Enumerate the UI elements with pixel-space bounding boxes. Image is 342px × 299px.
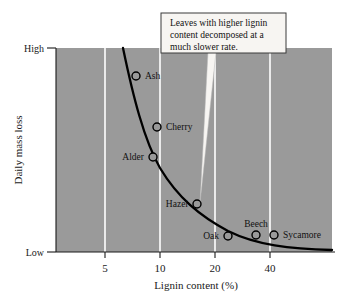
- data-label-cherry: Cherry: [166, 122, 193, 132]
- y-axis-high-label: High: [24, 43, 44, 54]
- x-tick-label-20: 20: [210, 262, 222, 274]
- chart-canvas: High Low Daily mass loss 5 10 20 40 Lign…: [0, 0, 342, 299]
- data-label-oak: Oak: [203, 231, 219, 241]
- y-axis-low-label: Low: [26, 247, 45, 258]
- x-axis-title: Lignin content (%): [154, 279, 238, 292]
- lignin-decomposition-figure: High Low Daily mass loss 5 10 20 40 Lign…: [0, 0, 342, 299]
- data-point-beech[interactable]: [252, 231, 260, 239]
- data-label-alder: Alder: [122, 152, 144, 162]
- data-point-sycamore[interactable]: [270, 231, 278, 239]
- x-tick-label-5: 5: [102, 262, 108, 274]
- data-label-ash: Ash: [145, 71, 161, 81]
- data-point-ash[interactable]: [132, 72, 140, 80]
- data-label-sycamore: Sycamore: [283, 230, 321, 240]
- data-label-hazel: Hazel: [166, 199, 189, 209]
- y-axis-title: Daily mass loss: [12, 115, 24, 184]
- x-axis-ticks: [105, 252, 270, 258]
- data-point-hazel[interactable]: [193, 200, 201, 208]
- data-point-cherry[interactable]: [153, 123, 161, 131]
- callout-line-1: Leaves with higher lignin: [170, 18, 268, 28]
- data-point-alder[interactable]: [149, 153, 157, 161]
- plot-area-background: [56, 48, 332, 252]
- x-tick-label-10: 10: [155, 262, 167, 274]
- callout-line-3: much slower rate.: [170, 42, 238, 52]
- x-tick-label-40: 40: [265, 262, 277, 274]
- callout-line-2: content decomposed at a: [170, 30, 264, 40]
- data-label-beech: Beech: [244, 219, 268, 229]
- data-point-oak[interactable]: [224, 232, 232, 240]
